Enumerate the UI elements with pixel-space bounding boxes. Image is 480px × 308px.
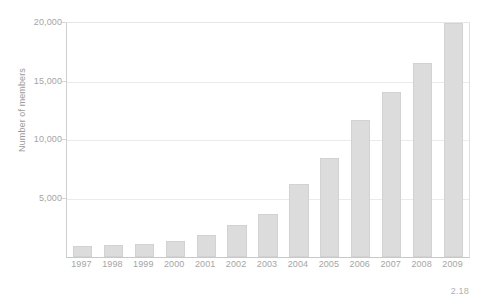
bar-slot xyxy=(438,23,469,257)
x-axis-tick-label: 2007 xyxy=(375,259,406,270)
x-axis-tick-label: 2006 xyxy=(344,259,375,270)
bar-slot xyxy=(222,23,253,257)
x-axis-tick-label: 2004 xyxy=(282,259,313,270)
bar-slot xyxy=(345,23,376,257)
bar[interactable] xyxy=(351,120,370,257)
x-axis-tick-label: 2005 xyxy=(313,259,344,270)
bar[interactable] xyxy=(382,92,401,257)
x-axis-tick-label: 1997 xyxy=(66,259,97,270)
figure-footnote: 2.18 xyxy=(451,286,469,296)
bar[interactable] xyxy=(197,235,216,257)
y-axis-tick-group: 5,00010,00015,00020,000 xyxy=(14,0,62,308)
bar[interactable] xyxy=(258,214,277,257)
bar[interactable] xyxy=(166,241,185,257)
bar-slot xyxy=(376,23,407,257)
bar[interactable] xyxy=(413,63,432,257)
x-axis-tick-group: 1997199819992000200120022003200420052006… xyxy=(66,259,470,273)
x-axis-tick-label: 2003 xyxy=(252,259,283,270)
bar-slot xyxy=(314,23,345,257)
x-axis-tick-label: 2000 xyxy=(159,259,190,270)
bar[interactable] xyxy=(320,158,339,257)
bar-slot xyxy=(160,23,191,257)
x-axis-tick-label: 1999 xyxy=(128,259,159,270)
bar-slot xyxy=(407,23,438,257)
bar[interactable] xyxy=(135,244,154,257)
bar-series xyxy=(67,23,469,257)
bar-slot xyxy=(129,23,160,257)
bar[interactable] xyxy=(73,246,92,257)
bar-slot xyxy=(191,23,222,257)
bar[interactable] xyxy=(104,245,123,257)
y-axis-tick-label: 10,000 xyxy=(16,134,62,144)
y-axis-tick-label: 20,000 xyxy=(16,17,62,27)
x-axis-tick-label: 2001 xyxy=(190,259,221,270)
x-axis-tick-label: 2002 xyxy=(221,259,252,270)
bar[interactable] xyxy=(444,23,463,257)
x-axis-tick-label: 2008 xyxy=(406,259,437,270)
plot-area xyxy=(66,22,470,258)
bar[interactable] xyxy=(289,184,308,257)
bar-slot xyxy=(67,23,98,257)
bar-slot xyxy=(253,23,284,257)
x-axis-tick-label: 1998 xyxy=(97,259,128,270)
y-axis-tick-label: 15,000 xyxy=(16,76,62,86)
bar-slot xyxy=(283,23,314,257)
y-axis-tick-label: 5,000 xyxy=(16,193,62,203)
x-axis-tick-label: 2009 xyxy=(437,259,468,270)
bar[interactable] xyxy=(227,225,246,257)
bar-slot xyxy=(98,23,129,257)
bar-chart-figure: Number of members 5,00010,00015,00020,00… xyxy=(0,0,480,308)
